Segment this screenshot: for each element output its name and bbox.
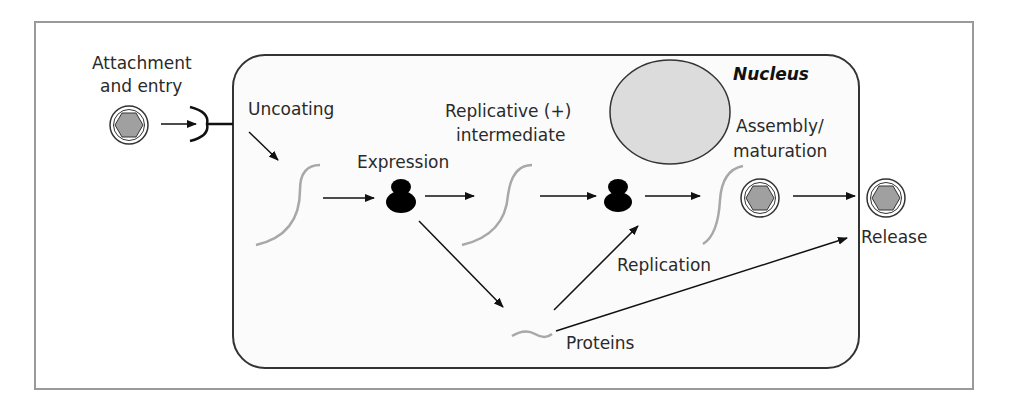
nucleus-shape bbox=[610, 60, 730, 164]
assembly-label-line1: Assembly/ bbox=[736, 116, 824, 136]
assembly-label-line2: maturation bbox=[733, 141, 827, 161]
attachment-label-line2: and entry bbox=[100, 76, 182, 96]
nucleus-label: Nucleus bbox=[733, 64, 809, 84]
release-label: Release bbox=[861, 227, 927, 247]
replication-label: Replication bbox=[617, 255, 711, 275]
uncoating-label: Uncoating bbox=[248, 99, 334, 119]
viral-life-cycle-diagram: Nucleus Attachment and entry Uncoating E… bbox=[0, 0, 1009, 410]
virion-icon-release bbox=[867, 179, 905, 217]
replicative-label-line2: intermediate bbox=[456, 125, 565, 145]
virion-icon-assembly bbox=[741, 179, 779, 217]
virion-icon-attachment bbox=[110, 106, 148, 144]
attachment-label-line1: Attachment bbox=[92, 53, 192, 73]
expression-label: Expression bbox=[357, 152, 449, 172]
proteins-label: Proteins bbox=[566, 333, 635, 353]
replicative-label-line1: Replicative (+) bbox=[445, 101, 571, 121]
